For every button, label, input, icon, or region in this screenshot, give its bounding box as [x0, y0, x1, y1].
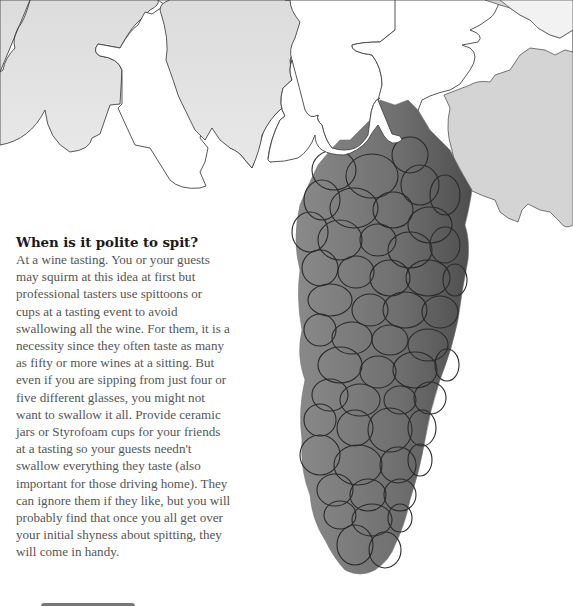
grape-cluster — [292, 100, 472, 574]
body-line: will come in handy. — [16, 543, 268, 560]
body-line: five different glasses, you might not — [16, 389, 268, 406]
body-line: your initial shyness about spitting, the… — [16, 526, 268, 543]
body-line: swallowing all the wine. For them, it is… — [16, 320, 268, 337]
article-body: At a wine tasting. You or your guests ma… — [16, 251, 268, 561]
body-line: even if you are sipping from just four o… — [16, 371, 268, 388]
body-line: professional tasters use spittoons or — [16, 285, 268, 302]
body-line: can ignore them if they like, but you wi… — [16, 492, 268, 509]
body-line: important for those driving home). They — [16, 475, 268, 492]
body-line: at a tasting so your guests needn't — [16, 440, 268, 457]
body-line: as fifty or more wines at a sitting. But — [16, 354, 268, 371]
article-heading: When is it polite to spit? — [16, 234, 268, 250]
body-line: probably find that once you all get over — [16, 509, 268, 526]
article: When is it polite to spit? At a wine tas… — [16, 234, 268, 561]
body-line: may squirm at this idea at first but — [16, 268, 268, 285]
body-line: want to swallow it all. Provide ceramic — [16, 406, 268, 423]
body-line: At a wine tasting. You or your guests — [16, 251, 268, 268]
body-line: cups at a tasting event to avoid — [16, 303, 268, 320]
body-line: jars or Styrofoam cups for your friends — [16, 423, 268, 440]
body-line: necessity since they often taste as many — [16, 337, 268, 354]
body-line: swallow everything they taste (also — [16, 457, 268, 474]
